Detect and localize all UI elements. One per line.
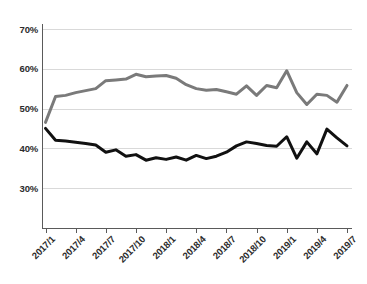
x-tick-label: 2018/4 [180, 233, 208, 261]
y-tick-label: 60% [20, 63, 39, 74]
y-tick-label: 70% [20, 24, 39, 35]
x-tick-label: 2019/1 [271, 233, 299, 261]
x-tick-label: 2018/10 [237, 234, 268, 265]
gridlines [43, 30, 353, 189]
series-line-upper-series [46, 71, 348, 123]
data-series-group [46, 71, 348, 160]
y-tick-label: 50% [20, 103, 39, 114]
line-chart: 70%60%50%40%30% 2017/12017/42017/72017/1… [0, 0, 367, 284]
x-tick-label: 2017/7 [90, 234, 117, 261]
x-tick-label: 2018/1 [150, 233, 178, 261]
y-tick-label: 40% [20, 143, 39, 154]
x-tick-label: 2019/7 [331, 234, 358, 261]
chart-canvas: 70%60%50%40%30% 2017/12017/42017/72017/1… [0, 0, 367, 284]
y-tick-label: 30% [20, 183, 39, 194]
x-tick-label: 2017/4 [60, 233, 88, 261]
y-axis-tick-labels: 70%60%50%40%30% [20, 24, 39, 194]
x-tick-label: 2017/10 [116, 234, 147, 265]
x-tick-label: 2017/1 [29, 233, 57, 261]
x-tick-label: 2019/4 [301, 233, 329, 261]
x-tick-label: 2018/7 [210, 234, 237, 261]
x-axis-tick-labels: 2017/12017/42017/72017/102018/12018/4201… [29, 233, 358, 265]
series-line-lower-series [46, 128, 348, 160]
